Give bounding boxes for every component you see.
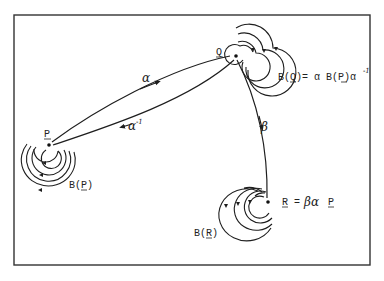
node-q-label: Q xyxy=(216,47,223,58)
loops-p xyxy=(21,144,75,192)
node-r-dot xyxy=(266,200,270,204)
br-annotation: B(R) xyxy=(194,228,218,239)
svg-text:βα: βα xyxy=(303,195,319,209)
diagram-canvas: P Q α α -1 β B(Q)= α B(P)α -1 B(P) B(R) … xyxy=(0,0,384,281)
r-equation: R = βα P xyxy=(282,195,334,209)
loops-q xyxy=(225,24,296,96)
edge-alpha xyxy=(52,56,230,142)
svg-text:-1: -1 xyxy=(363,67,370,75)
edge-alpha-inverse-label: α -1 xyxy=(128,118,143,133)
svg-text:P: P xyxy=(44,129,50,140)
svg-text:B(R): B(R) xyxy=(194,228,218,239)
svg-text:-1: -1 xyxy=(136,118,143,126)
node-p-label: P xyxy=(44,129,51,140)
loops-r xyxy=(219,187,272,240)
svg-text:B(P): B(P) xyxy=(69,180,93,191)
svg-text:Q: Q xyxy=(216,47,222,58)
svg-text:P: P xyxy=(328,197,334,208)
node-p-dot xyxy=(47,143,51,147)
edge-alpha-label: α xyxy=(142,71,150,85)
bp-annotation: B(P) xyxy=(69,180,93,191)
svg-text:R =: R = xyxy=(282,197,300,208)
svg-text:α: α xyxy=(128,119,136,133)
svg-text:B(Q)= α B(P)α: B(Q)= α B(P)α xyxy=(278,72,356,83)
bq-annotation: B(Q)= α B(P)α -1 xyxy=(278,67,370,83)
edge-beta-label: β xyxy=(260,120,268,134)
node-q-dot xyxy=(234,54,238,58)
